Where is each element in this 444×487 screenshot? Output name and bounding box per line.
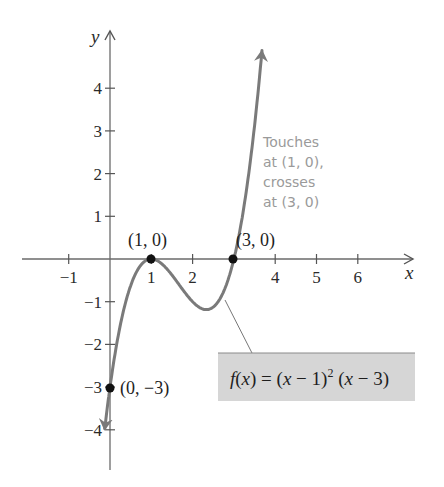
y-axis-label: y	[89, 26, 100, 47]
point-0-neg3	[106, 384, 115, 393]
formula-text: f(x) = (x − 1)2 (x − 3)	[230, 366, 389, 390]
point-label-1-0: (1, 0)	[128, 230, 167, 251]
y-tick-label: 4	[94, 79, 103, 98]
y-tick-label: −4	[84, 421, 103, 440]
point-label-0-neg3: (0, −3)	[120, 378, 169, 399]
formula-callout-box: f(x) = (x − 1)2 (x − 3)	[218, 300, 415, 401]
x-tick-label: 4	[271, 268, 280, 287]
y-tick-label: 1	[94, 207, 103, 226]
point-label-3-0: (3, 0)	[236, 230, 275, 251]
function-curve-lower-arrow	[105, 387, 110, 430]
y-tick-label: −2	[84, 335, 102, 354]
y-tick-label: −1	[84, 293, 102, 312]
touches-crosses-annotation: Touches at (1, 0), crosses at (3, 0)	[262, 134, 324, 210]
x-tick-label: 5	[312, 268, 321, 287]
svg-text:at (1, 0),: at (1, 0),	[263, 154, 324, 170]
svg-text:at (3, 0): at (3, 0)	[263, 194, 319, 210]
x-tick-label: −1	[60, 268, 78, 287]
x-tick-label: 2	[188, 268, 197, 287]
svg-text:crosses: crosses	[263, 174, 315, 190]
y-tick-label: 3	[94, 122, 103, 141]
x-tick-label: 1	[147, 268, 156, 287]
point-1-0	[147, 255, 156, 264]
point-3-0	[229, 255, 238, 264]
y-tick-label: −3	[84, 378, 102, 397]
y-tick-label: 2	[94, 165, 103, 184]
svg-text:Touches: Touches	[262, 134, 319, 150]
x-tick-label: 6	[354, 268, 363, 287]
x-axis-label: x	[404, 262, 414, 283]
function-graph: −112456 4321−1−2−3−4 x y (1, 0) (3, 0) (…	[0, 0, 444, 487]
